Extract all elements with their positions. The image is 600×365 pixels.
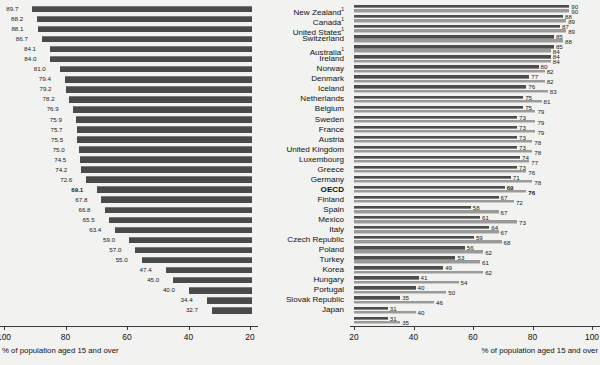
left-bar [80,156,252,163]
right-bar-a [354,296,400,299]
right-bar-row: 7477 [350,155,600,165]
left-bar-row: 67.8 [0,195,258,205]
left-bar-value-label: 47.4 [140,266,152,274]
left-bar-track: 86.7 [0,36,252,43]
left-bar [109,217,252,224]
left-bar-track: 72.6 [0,176,252,183]
right-bar-a [354,156,520,159]
right-bar-row: 7376 [350,165,600,175]
axis-tick-label: 80 [61,332,70,342]
right-bar-track: 7477 [354,155,600,165]
right-bar-track: 6173 [354,215,600,225]
left-bar-track: 45.0 [0,277,252,284]
right-bar-b [354,230,499,233]
right-bar-row: 7379 [350,125,600,135]
country-label: Slovak Republic [258,295,350,305]
right-bar-b [354,240,502,243]
right-bar-row: 7683 [350,84,600,94]
left-bar [69,96,252,103]
left-bar-value-label: 63.4 [89,226,101,234]
left-bar-row: 75.9 [0,115,258,125]
right-bar-b [354,180,532,183]
right-bar-a [354,136,517,139]
left-bar [66,86,252,93]
right-bar-track: 6976 [354,185,600,195]
left-bar-value-label: 86.7 [16,35,28,43]
left-bar-row: 89.7 [0,4,258,14]
country-label: Denmark [258,74,350,84]
right-bar-track: 5361 [354,255,600,265]
right-bar-b [354,110,535,113]
left-bar-track: 59.0 [0,237,252,244]
right-bar-b [354,271,483,274]
right-bar-track: 4154 [354,275,600,285]
right-bar-row: 4962 [350,265,600,275]
right-bar-a [354,256,455,259]
left-bar [115,227,252,234]
right-bar-a [354,307,388,310]
right-bar-row: 8584 [350,44,600,54]
country-labels: New Zealand1Canada1United States1Switzer… [258,4,350,326]
left-bar-row: 75.0 [0,145,258,155]
left-bar-row: 65.5 [0,215,258,225]
right-bar-track: 7379 [354,125,600,135]
left-bar-track: 75.0 [0,146,252,153]
right-bar-row: 3546 [350,295,600,305]
country-label: Netherlands [258,94,350,104]
left-bar-value-label: 34.4 [181,296,193,304]
left-bar [97,186,252,193]
right-bar-a [354,5,569,8]
left-bar [212,307,252,314]
axis-tick-label: 40 [184,332,193,342]
left-bar-value-label: 67.8 [75,196,87,204]
country-label: United Kingdom [258,145,350,155]
left-bar [135,247,252,254]
left-plot-area: 89.788.288.186.784.184.081.079.479.278.2… [0,4,258,326]
left-bar [76,116,252,123]
right-bar-b [354,70,545,73]
left-bar-row: 47.4 [0,265,258,275]
axis-tick [127,326,128,330]
right-bar-track: 7579 [354,104,600,114]
country-label: Norway [258,64,350,74]
left-bar [60,66,252,73]
left-bar-row: 84.0 [0,54,258,64]
right-bar-row: 9090 [350,4,600,14]
axis-tick [4,326,5,330]
right-bar-row: 7581 [350,94,600,104]
right-bar-row: 5968 [350,235,600,245]
left-bar-track: 88.2 [0,16,252,23]
country-label: Italy [258,225,350,235]
axis-tick [414,326,415,330]
left-bar-row [0,315,258,325]
left-bar-value-label: 79.2 [39,85,51,93]
axis-tick-label: 60 [122,332,131,342]
left-bar-row: 63.4 [0,225,258,235]
left-bar-value-label: 75.0 [53,146,65,154]
left-bar [50,46,252,53]
left-bar-row: 74.2 [0,165,258,175]
right-chart-panel: 9090888987898588858484848082778276837581… [350,0,600,365]
right-bar-track: 8789 [354,24,600,34]
country-label: Japan [258,305,350,315]
right-bar-b [354,130,535,133]
country-label: Poland [258,245,350,255]
left-bar-value-label: 81.0 [34,65,46,73]
right-bar-b [354,301,434,304]
left-bar [166,267,252,274]
right-bar-b [354,60,551,63]
right-bar-track: 8584 [354,44,600,54]
right-bar-a [354,65,539,68]
right-bar-track: 8484 [354,54,600,64]
right-bar-a [354,216,480,219]
country-label: France [258,125,350,135]
left-bar-track: 75.7 [0,126,252,133]
left-bar-row: 79.4 [0,74,258,84]
left-bar [77,136,252,143]
right-bar-track: 5867 [354,205,600,215]
country-label: Mexico [258,215,350,225]
left-bar-value-label: 89.7 [6,5,18,13]
right-bar-row: 5662 [350,245,600,255]
right-bar-a [354,126,517,129]
left-bar-value-label: 74.2 [55,166,67,174]
